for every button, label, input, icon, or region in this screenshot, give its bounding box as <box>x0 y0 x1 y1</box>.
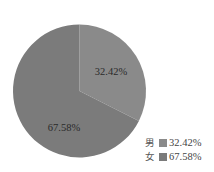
slice-label-male: 32.42% <box>95 66 128 77</box>
legend-value-female: 67.58% <box>169 150 201 164</box>
legend-item-female: 女 67.58% <box>145 150 201 164</box>
pie-slices <box>13 25 146 158</box>
legend-label-male: 男 <box>145 136 157 150</box>
legend-item-male: 男 32.42% <box>145 136 201 150</box>
legend-label-female: 女 <box>145 150 157 164</box>
legend-value-male: 32.42% <box>169 136 201 150</box>
slice-label-female: 67.58% <box>48 122 81 133</box>
legend-swatch-male <box>159 139 167 147</box>
legend-swatch-female <box>159 153 167 161</box>
chart-legend: 男 32.42% 女 67.58% <box>145 136 201 164</box>
